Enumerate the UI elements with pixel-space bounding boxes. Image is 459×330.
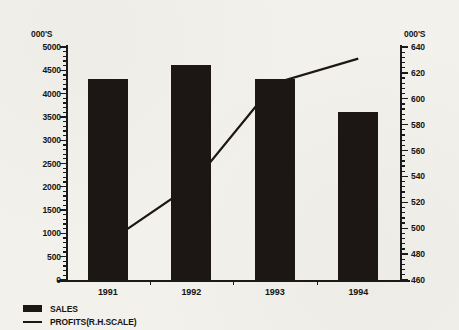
left-axis-minor-tick	[63, 51, 66, 52]
right-axis-tick-label: 500	[411, 223, 425, 233]
left-axis-minor-tick	[63, 154, 66, 155]
chart-container: 000'S 000'S 0500100015002000250030003500…	[0, 0, 459, 330]
left-axis-minor-tick	[63, 107, 66, 108]
right-axis-major-tick	[402, 176, 408, 177]
left-axis-minor-tick	[63, 181, 66, 182]
right-axis-minor-tick	[402, 103, 405, 104]
x-axis-label-1994: 1994	[328, 287, 388, 297]
right-axis-minor-tick	[402, 197, 405, 198]
legend-item-sales: SALES	[23, 303, 273, 314]
right-axis-minor-tick	[402, 88, 405, 89]
right-axis-major-tick	[402, 98, 408, 99]
left-axis-minor-tick	[63, 158, 66, 159]
right-axis-minor-tick	[402, 207, 405, 208]
left-axis-minor-tick	[63, 177, 66, 178]
legend-item-profits: PROFITS(R.H.SCALE)	[23, 316, 273, 327]
chart-legend: SALES PROFITS(R.H.SCALE)	[23, 303, 273, 329]
legend-label-profits: PROFITS(R.H.SCALE)	[50, 317, 137, 327]
left-axis-minor-tick	[63, 60, 66, 61]
right-axis-minor-tick	[402, 114, 405, 115]
right-axis-tick-label: 480	[411, 249, 425, 259]
right-axis-minor-tick	[402, 93, 405, 94]
x-axis-label-1992: 1992	[161, 287, 221, 297]
left-axis-minor-tick	[63, 84, 66, 85]
left-axis-tick-label: 2000	[42, 182, 61, 192]
right-axis-minor-tick	[402, 160, 405, 161]
left-axis-minor-tick	[63, 102, 66, 103]
x-axis-label-1991: 1991	[78, 287, 138, 297]
right-axis-tick-label: 580	[411, 120, 425, 130]
right-axis-minor-tick	[402, 140, 405, 141]
left-axis-tick-label: 3000	[42, 135, 61, 145]
right-axis-unit-label: 000'S	[404, 29, 425, 39]
left-axis-minor-tick	[63, 79, 66, 80]
right-axis-minor-tick	[402, 191, 405, 192]
right-axis-tick-label: 540	[411, 171, 425, 181]
right-axis-minor-tick	[402, 145, 405, 146]
bar-1991	[88, 79, 128, 280]
left-axis-minor-tick	[63, 265, 66, 266]
left-axis-minor-tick	[63, 98, 66, 99]
right-axis-minor-tick	[402, 67, 405, 68]
left-axis-minor-tick	[63, 228, 66, 229]
right-axis-minor-tick	[402, 264, 405, 265]
left-axis-minor-tick	[63, 261, 66, 262]
right-axis-minor-tick	[402, 212, 405, 213]
right-axis-major-tick	[402, 202, 408, 203]
right-axis-minor-tick	[402, 77, 405, 78]
left-axis-tick-label: 0	[56, 275, 61, 285]
left-axis-minor-tick	[63, 56, 66, 57]
left-axis-minor-tick	[63, 251, 66, 252]
x-axis-tick	[317, 281, 318, 285]
left-axis-tick-label: 1000	[42, 228, 61, 238]
left-axis-minor-tick	[63, 112, 66, 113]
right-axis-major-tick	[402, 279, 408, 280]
right-axis-minor-tick	[402, 62, 405, 63]
right-axis-tick-label: 620	[411, 68, 425, 78]
bar-1992	[171, 65, 211, 280]
right-axis-tick-label: 520	[411, 197, 425, 207]
left-axis-unit-label: 000'S	[31, 29, 52, 39]
right-axis-major-tick	[402, 124, 408, 125]
x-axis-tick	[150, 281, 151, 285]
right-axis-minor-tick	[402, 243, 405, 244]
right-axis-minor-tick	[402, 165, 405, 166]
right-axis-tick-label: 640	[411, 42, 425, 52]
right-axis-minor-tick	[402, 274, 405, 275]
right-axis-major-tick	[402, 72, 408, 73]
left-axis-minor-tick	[63, 195, 66, 196]
right-axis-minor-tick	[402, 269, 405, 270]
left-axis-minor-tick	[63, 247, 66, 248]
left-axis-minor-tick	[63, 191, 66, 192]
right-axis-major-tick	[402, 228, 408, 229]
right-axis-tick-label: 460	[411, 275, 425, 285]
legend-label-sales: SALES	[50, 304, 78, 314]
right-axis-minor-tick	[402, 129, 405, 130]
left-axis-minor-tick	[63, 74, 66, 75]
left-axis-minor-tick	[63, 121, 66, 122]
left-axis-minor-tick	[63, 65, 66, 66]
left-axis-tick-label: 4500	[42, 65, 61, 75]
left-axis-minor-tick	[63, 172, 66, 173]
right-axis-minor-tick	[402, 134, 405, 135]
left-axis-line	[66, 45, 68, 281]
right-axis-minor-tick	[402, 171, 405, 172]
left-axis-tick-label: 4000	[42, 89, 61, 99]
right-axis-tick-label: 600	[411, 94, 425, 104]
right-axis-minor-tick	[402, 108, 405, 109]
right-axis-minor-tick	[402, 119, 405, 120]
left-axis-minor-tick	[63, 219, 66, 220]
x-axis-label-1993: 1993	[245, 287, 305, 297]
right-axis-minor-tick	[402, 181, 405, 182]
left-axis-minor-tick	[63, 135, 66, 136]
right-axis-minor-tick	[402, 233, 405, 234]
left-axis-minor-tick	[63, 223, 66, 224]
right-axis-minor-tick	[402, 52, 405, 53]
left-axis-minor-tick	[63, 205, 66, 206]
left-axis-minor-tick	[63, 144, 66, 145]
left-axis-minor-tick	[63, 214, 66, 215]
right-axis-minor-tick	[402, 217, 405, 218]
left-axis-minor-tick	[63, 88, 66, 89]
right-axis-minor-tick	[402, 155, 405, 156]
x-axis-tick	[233, 281, 234, 285]
